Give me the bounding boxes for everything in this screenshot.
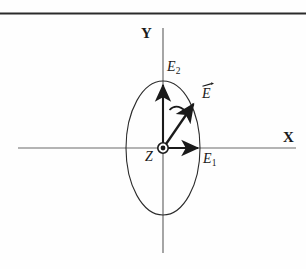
e-resultant-vector-label-base: E xyxy=(202,86,211,101)
e-resultant-vector-label: E xyxy=(202,87,211,101)
z-axis-label: Z xyxy=(145,150,153,164)
e2-component-label-subscript: 2 xyxy=(176,66,181,76)
y-axis-label: Y xyxy=(141,26,152,41)
e1-component-label-base: E xyxy=(203,151,212,166)
e-resultant-vector-arrow xyxy=(164,104,194,147)
z-axis-out-of-page-dot xyxy=(161,146,166,151)
e2-component-label-base: E xyxy=(167,59,176,74)
rotation-arc-arrow xyxy=(170,107,191,120)
figure-canvas: Y X Z E2 E1 E xyxy=(0,0,306,269)
e2-component-label: E2 xyxy=(167,60,181,76)
diagram-svg xyxy=(0,0,306,269)
e1-component-label: E1 xyxy=(203,152,217,168)
x-axis-label: X xyxy=(283,130,294,145)
e1-component-label-subscript: 1 xyxy=(212,158,217,168)
